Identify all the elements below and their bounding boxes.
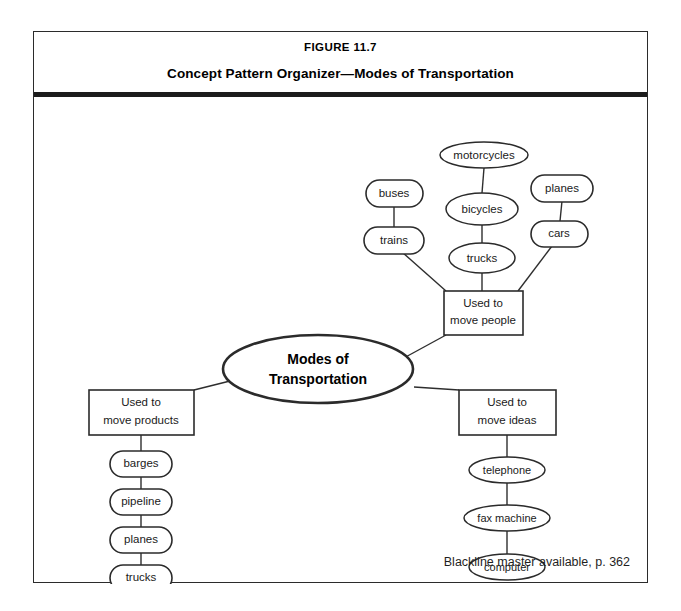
- node-fax-machine-label: fax machine: [477, 512, 536, 524]
- box-ideas-line1: Used to: [487, 396, 527, 408]
- node-trains-top-label: trains: [380, 234, 408, 246]
- figure-title: Concept Pattern Organizer—Modes of Trans…: [34, 66, 647, 81]
- node-bicycles[interactable]: bicycles: [446, 193, 518, 225]
- edge-motorcycles-bicycles: [482, 168, 484, 193]
- box-used-to-move-products[interactable]: Used to move products: [89, 390, 194, 435]
- edge-center-ideas: [414, 387, 459, 390]
- box-people-line1: Used to: [463, 297, 503, 309]
- node-telephone[interactable]: telephone: [469, 457, 545, 483]
- node-barges-label: barges: [123, 457, 158, 469]
- node-motorcycles[interactable]: motorcycles: [440, 142, 528, 168]
- center-node-line2: Transportation: [269, 371, 367, 387]
- node-pipeline[interactable]: pipeline: [110, 489, 172, 515]
- blackline-master-note: Blackline master available, p. 362: [444, 555, 630, 569]
- node-trucks-top-label: trucks: [467, 252, 498, 264]
- edge-planes-cars: [560, 201, 562, 221]
- node-planes-top-label: planes: [545, 182, 579, 194]
- node-trucks-top[interactable]: trucks: [449, 243, 515, 273]
- node-trucks-left-label: trucks: [126, 571, 157, 583]
- box-ideas-line2: move ideas: [478, 414, 537, 426]
- node-barges[interactable]: barges: [110, 451, 172, 477]
- node-planes-left-label: planes: [124, 533, 158, 545]
- figure-frame: FIGURE 11.7 Concept Pattern Organizer—Mo…: [33, 31, 648, 583]
- edge-people-center: [402, 335, 446, 359]
- node-pipeline-label: pipeline: [121, 495, 161, 507]
- node-planes-left[interactable]: planes: [110, 527, 172, 553]
- center-node-modes-of-transportation[interactable]: Modes of Transportation: [223, 335, 413, 403]
- node-motorcycles-label: motorcycles: [453, 149, 515, 161]
- center-node-line1: Modes of: [287, 351, 349, 367]
- node-telephone-label: telephone: [483, 464, 531, 476]
- box-used-to-move-ideas[interactable]: Used to move ideas: [459, 390, 556, 435]
- node-buses-label: buses: [379, 187, 410, 199]
- node-cars[interactable]: cars: [531, 221, 588, 247]
- node-planes-top[interactable]: planes: [531, 175, 593, 202]
- edge-trains-people: [402, 252, 446, 291]
- node-fax-machine[interactable]: fax machine: [464, 505, 550, 531]
- figure-page: FIGURE 11.7 Concept Pattern Organizer—Mo…: [0, 0, 681, 611]
- node-trains-top[interactable]: trains: [364, 227, 424, 254]
- node-buses[interactable]: buses: [366, 180, 423, 207]
- edge-center-products: [194, 381, 230, 390]
- box-products-line1: Used to: [121, 396, 161, 408]
- node-bicycles-label: bicycles: [462, 203, 503, 215]
- box-people-line2: move people: [450, 314, 516, 326]
- edge-cars-people: [518, 246, 552, 291]
- figure-number: FIGURE 11.7: [34, 41, 647, 53]
- box-used-to-move-people[interactable]: Used to move people: [444, 291, 523, 335]
- concept-map-diagram: motorcycles bicycles trucks buses trains: [34, 97, 647, 584]
- node-cars-label: cars: [548, 227, 570, 239]
- figure-header: FIGURE 11.7 Concept Pattern Organizer—Mo…: [34, 32, 647, 93]
- box-products-line2: move products: [103, 414, 179, 426]
- node-trucks-left[interactable]: trucks: [110, 565, 172, 584]
